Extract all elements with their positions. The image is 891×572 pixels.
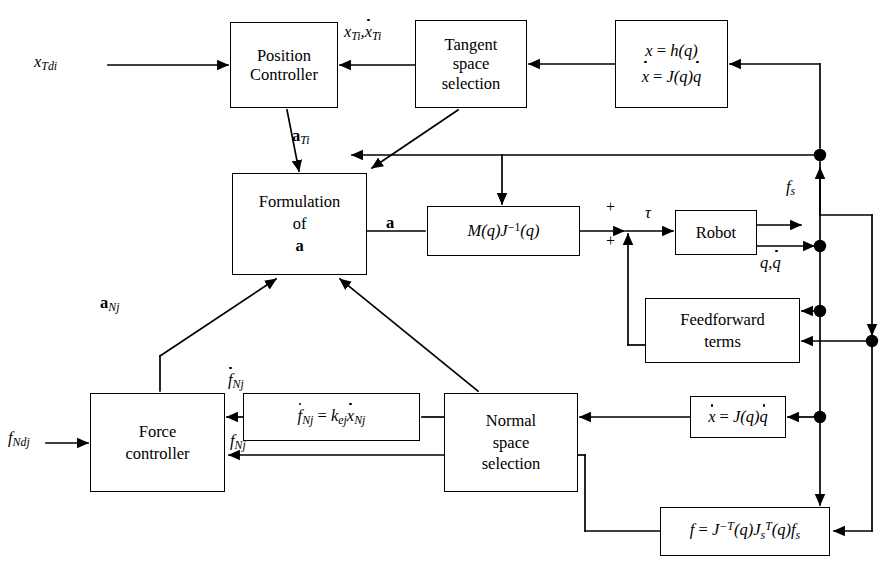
junction-dots-layer [0, 0, 891, 572]
junction-fs-top [814, 149, 826, 161]
junction-feedforward [814, 305, 826, 317]
junction-right-outer [866, 335, 878, 347]
block-diagram: Position Controller Tangent space select… [0, 0, 891, 572]
junction-xdot [814, 411, 826, 423]
junction-q-mid [814, 240, 826, 252]
